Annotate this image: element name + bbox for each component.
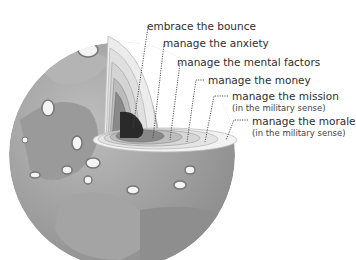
label-manage-the-mental-factors: manage the mental factors [177,56,320,68]
label-manage-the-mission: manage the mission [232,90,339,102]
label-morale-subtitle: (in the military sense) [252,128,346,138]
label-embrace-the-bounce: embrace the bounce [147,20,256,32]
label-manage-the-anxiety: manage the anxiety [163,37,269,49]
label-mission-subtitle: (in the military sense) [232,103,326,113]
label-manage-the-money: manage the money [208,74,311,86]
label-manage-the-morale: manage the morale [252,115,356,127]
